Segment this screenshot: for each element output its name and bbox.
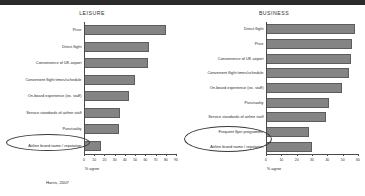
bar	[84, 25, 166, 35]
x-tick	[343, 154, 344, 156]
top-dark-band	[0, 0, 365, 5]
bar	[84, 75, 135, 85]
bar	[84, 42, 149, 52]
bar	[84, 124, 119, 134]
category-label: Direct flight	[8, 45, 84, 49]
x-tick	[104, 154, 105, 156]
bar-track	[266, 110, 358, 125]
bar-row: Service standards of airline staff	[8, 105, 176, 122]
category-label: Convenience of UK airport	[190, 57, 266, 61]
plot-area-leisure: PriceDirect flightConvenience of UK airp…	[8, 22, 176, 154]
y-axis-line	[84, 22, 85, 154]
x-axis-label-business: % agree	[184, 166, 364, 171]
bar-track	[266, 81, 358, 96]
x-tick-label: 40	[325, 158, 329, 162]
bar	[84, 141, 101, 151]
bar-row: Airline brand name / reputation	[190, 139, 358, 154]
plot-area-business: Direct flightPriceConvenience of UK airp…	[190, 22, 358, 154]
x-tick	[327, 154, 328, 156]
x-tick	[297, 154, 298, 156]
bar-track	[84, 39, 176, 56]
bar-track	[266, 95, 358, 110]
category-label: Service standards of airline staff	[8, 111, 84, 115]
figure-root: LEISURE PriceDirect flightConvenience of…	[0, 0, 365, 196]
bar-row: Convenient flight times/schedule	[190, 66, 358, 81]
x-tick-label: 30	[113, 158, 117, 162]
bar-row: Convenience of UK airport	[190, 51, 358, 66]
category-label: Price	[190, 42, 266, 46]
bar-track	[266, 66, 358, 81]
category-label: Direct flight	[190, 27, 266, 31]
bar-track	[266, 125, 358, 140]
category-label: Airline brand name / reputation	[8, 144, 84, 148]
category-label: Price	[8, 28, 84, 32]
category-label: Punctuality	[8, 127, 84, 131]
bar	[266, 98, 329, 108]
bar-track	[84, 105, 176, 122]
bar-row: Direct flight	[190, 22, 358, 37]
category-label: Convenient flight times/schedule	[190, 71, 266, 75]
bar-row: Airline brand name / reputation	[8, 138, 176, 155]
chart-panel-business: BUSINESS Direct flightPriceConvenience o…	[184, 8, 364, 188]
x-tick	[84, 154, 85, 156]
bar	[266, 54, 351, 64]
x-tick	[358, 154, 359, 156]
x-tick-label: 50	[341, 158, 345, 162]
bar-track	[266, 37, 358, 52]
bar	[266, 39, 352, 49]
category-label: Service standards of airline staff	[190, 115, 266, 119]
x-tick-label: 0	[83, 158, 85, 162]
bar	[266, 127, 309, 137]
x-tick-label: 60	[143, 158, 147, 162]
bar-track	[84, 88, 176, 105]
x-tick	[266, 154, 267, 156]
bar-row: On-board experience (ex. staff)	[8, 88, 176, 105]
x-tick-label: 40	[123, 158, 127, 162]
bar	[266, 142, 312, 152]
bar-row: Service standards of airline staff	[190, 110, 358, 125]
source-note: Harris, 2007	[46, 180, 69, 185]
x-tick-label: 0	[265, 158, 267, 162]
bar-row: Frequent flyer programme	[190, 125, 358, 140]
x-tick-label: 30	[310, 158, 314, 162]
category-label: Frequent flyer programme	[190, 130, 266, 134]
x-tick-label: 80	[164, 158, 168, 162]
bar-track	[84, 138, 176, 155]
bar	[266, 112, 326, 122]
bar	[266, 24, 355, 34]
bar	[266, 68, 349, 78]
x-tick	[125, 154, 126, 156]
category-label: Airline brand name / reputation	[190, 145, 266, 149]
chart-panel-leisure: LEISURE PriceDirect flightConvenience of…	[2, 8, 182, 188]
bar-track	[266, 139, 358, 154]
x-axis-label-leisure: % agree	[2, 166, 182, 171]
bar-rows-business: Direct flightPriceConvenience of UK airp…	[190, 22, 358, 154]
x-tick	[94, 154, 95, 156]
x-tick-label: 20	[103, 158, 107, 162]
x-tick	[135, 154, 136, 156]
bar-row: On-board experience (ex. staff)	[190, 81, 358, 96]
bar-row: Punctuality	[8, 121, 176, 138]
x-axis-line	[84, 154, 176, 155]
x-tick	[115, 154, 116, 156]
bar-rows-leisure: PriceDirect flightConvenience of UK airp…	[8, 22, 176, 154]
y-axis-line	[266, 22, 267, 154]
category-label: On-board experience (ex. staff)	[190, 86, 266, 90]
bar	[266, 83, 342, 93]
chart-title-business: BUSINESS	[184, 10, 364, 16]
bar-track	[84, 22, 176, 39]
bar-row: Price	[8, 22, 176, 39]
bar-row: Direct flight	[8, 39, 176, 56]
category-label: Convenient flight times/schedule	[8, 78, 84, 82]
x-tick	[281, 154, 282, 156]
bar-row: Convenient flight times/schedule	[8, 72, 176, 89]
bar	[84, 91, 129, 101]
bar-track	[84, 72, 176, 89]
x-tick-label: 70	[154, 158, 158, 162]
bar	[84, 108, 120, 118]
bar-row: Price	[190, 37, 358, 52]
bar-track	[266, 22, 358, 37]
x-tick-label: 60	[356, 158, 360, 162]
category-label: Punctuality	[190, 101, 266, 105]
chart-title-leisure: LEISURE	[2, 10, 182, 16]
